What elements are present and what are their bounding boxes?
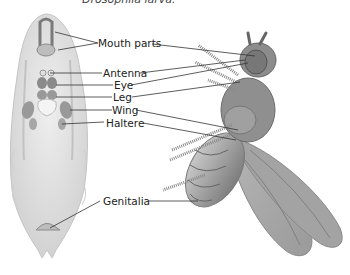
larva [10,14,87,258]
label-mouth-parts: Mouth parts [98,37,161,49]
fly-eye [245,50,267,74]
label-leg: Leg [113,91,132,103]
label-haltere: Haltere [106,117,144,129]
label-antenna: Antenna [103,67,147,79]
eye-disc [37,77,47,89]
label-wing: Wing [112,104,138,116]
adult-fly [163,33,342,256]
label-genitalia: Genitalia [103,195,150,207]
diagram-illustration [0,0,350,275]
label-eye: Eye [114,79,133,91]
